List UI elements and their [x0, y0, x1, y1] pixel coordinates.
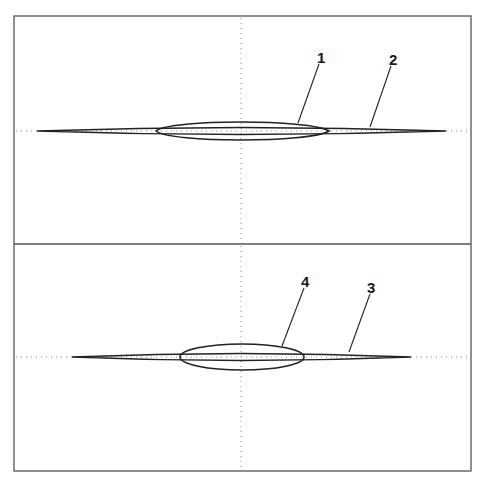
two-panel-shape-diagram: 1 2 4 3 — [0, 0, 487, 487]
leader-line-1 — [298, 64, 319, 123]
leader-line-2 — [370, 66, 391, 127]
label-3: 3 — [367, 279, 375, 296]
leader-line-4 — [282, 288, 304, 346]
bottom-panel: 4 3 — [16, 246, 469, 469]
leader-line-3 — [349, 294, 370, 352]
label-4: 4 — [301, 273, 310, 290]
label-2: 2 — [389, 51, 397, 68]
label-1: 1 — [317, 49, 325, 66]
top-panel: 1 2 — [16, 18, 469, 242]
